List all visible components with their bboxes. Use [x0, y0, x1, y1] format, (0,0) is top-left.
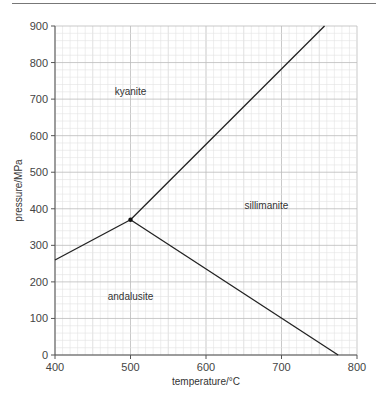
x-axis-label: temperature/°C: [172, 376, 240, 387]
y-tick-label: 700: [30, 93, 48, 105]
triple-point-marker: [128, 218, 132, 222]
phase-boundaries: [55, 26, 338, 355]
y-tick-label: 100: [30, 312, 48, 324]
x-tick-label: 600: [197, 361, 215, 373]
y-tick-label: 400: [30, 203, 48, 215]
region-label-andalusite: andalusite: [108, 291, 154, 302]
x-tick-label: 700: [272, 361, 290, 373]
region-label-kyanite: kyanite: [115, 86, 147, 97]
y-tick-label: 600: [30, 130, 48, 142]
y-tick-label: 200: [30, 276, 48, 288]
phase-diagram-chart: 4005006007008000100200300400500600700800…: [0, 0, 378, 400]
y-tick-label: 900: [30, 20, 48, 32]
y-tick-label: 0: [42, 349, 48, 361]
phase-boundary-line: [131, 220, 339, 355]
x-tick-label: 500: [121, 361, 139, 373]
y-tick-label: 300: [30, 239, 48, 251]
region-label-sillimanite: sillimanite: [244, 200, 288, 211]
grid: [55, 26, 357, 355]
axes: 4005006007008000100200300400500600700800…: [13, 20, 366, 387]
x-tick-label: 400: [46, 361, 64, 373]
y-tick-label: 500: [30, 166, 48, 178]
y-tick-label: 800: [30, 57, 48, 69]
y-axis-label: pressure/MPa: [13, 159, 24, 222]
x-tick-label: 800: [348, 361, 366, 373]
